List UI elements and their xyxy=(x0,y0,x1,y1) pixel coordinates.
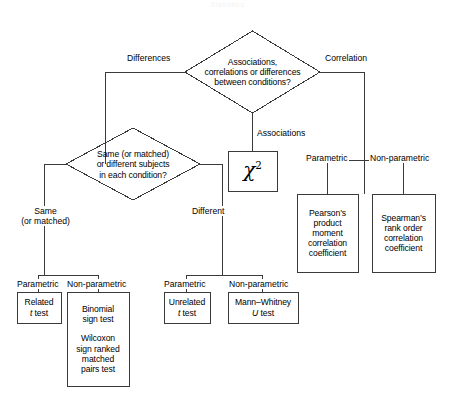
subjects-decision-text: Same (or matched) or different subjects … xyxy=(72,142,194,187)
edge-label-different: Different xyxy=(191,206,225,216)
edge-label-differences: Differences xyxy=(126,53,171,63)
related-t-line-2: t test xyxy=(25,308,54,318)
pearson-line-2: product xyxy=(308,218,347,228)
edge-label-parametric-different: Parametric xyxy=(163,279,207,289)
binomial-line-2: sign test xyxy=(67,314,129,324)
edge-label-parametric-correlation: Parametric xyxy=(305,153,349,163)
edge-label-nonparametric-same: Non-parametric xyxy=(66,279,127,289)
spearman-line-2: rank order xyxy=(381,223,426,233)
chi-square-symbol: χ2 xyxy=(243,159,262,183)
unrelated-t-line-2: t test xyxy=(169,308,205,318)
spearman-line-1: Spearman’s xyxy=(381,213,426,223)
wilcoxon-line-4: pairs test xyxy=(67,364,129,374)
unrelated-t-italic: t xyxy=(178,308,180,318)
root-decision-text: Associations, correlations or difference… xyxy=(182,48,323,96)
pearson-label: Pearson’s product moment correlation coe… xyxy=(297,194,358,272)
subjects-decision-line-1: Same (or matched) xyxy=(97,149,170,159)
edge-label-nonparametric-correlation: Non-parametric xyxy=(369,153,430,163)
root-decision-line-2: correlations or differences xyxy=(204,67,300,77)
edge-label-associations: Associations xyxy=(256,128,306,138)
related-t-label: Related t test xyxy=(17,292,61,323)
nonparam-same-label: Binomial sign test Wilcoxon sign ranked … xyxy=(67,292,129,386)
mann-whitney-line-1: Mann–Whitney xyxy=(235,297,291,307)
pearson-line-4: correlation xyxy=(308,238,347,248)
unrelated-t-line-1: Unrelated xyxy=(169,297,205,307)
mann-whitney-line-2: U test xyxy=(235,308,291,318)
spearman-line-3: correlation xyxy=(381,233,426,243)
binomial-line-1: Binomial xyxy=(67,304,129,314)
unrelated-t-label: Unrelated t test xyxy=(164,292,210,323)
pearson-line-1: Pearson’s xyxy=(308,208,347,218)
wilcoxon-line-1: Wilcoxon xyxy=(67,333,129,343)
related-t-italic: t xyxy=(30,308,32,318)
flowchart-canvas: Statistics xyxy=(0,0,455,415)
pearson-line-3: moment xyxy=(308,228,347,238)
subjects-decision-line-2: or different subjects xyxy=(97,159,170,169)
pearson-line-5: coefficient xyxy=(308,248,347,258)
mann-whitney-label: Mann–Whitney U test xyxy=(228,292,298,323)
wilcoxon-line-2: sign ranked xyxy=(67,344,129,354)
related-t-line-1: Related xyxy=(25,297,54,307)
edge-label-parametric-same: Parametric xyxy=(16,279,60,289)
edge-label-same: Same (or matched) xyxy=(7,206,84,226)
box-inner-gap xyxy=(67,324,129,333)
wilcoxon-line-3: matched xyxy=(67,354,129,364)
root-decision-line-1: Associations, xyxy=(204,57,300,67)
mann-whitney-italic: U xyxy=(252,308,258,318)
edge-label-same-line-1: Same xyxy=(8,206,83,216)
root-decision-line-3: between conditions? xyxy=(204,77,300,87)
edge-different xyxy=(200,164,222,275)
edge-label-correlation: Correlation xyxy=(324,53,368,63)
chi-square-label: χ2 xyxy=(228,151,277,191)
edge-label-nonparametric-different: Non-parametric xyxy=(228,279,289,289)
spearman-line-4: coefficient xyxy=(381,243,426,253)
subjects-decision-line-3: in each condition? xyxy=(97,170,170,180)
spearman-label: Spearman’s rank order correlation coeffi… xyxy=(372,194,435,272)
edge-label-same-line-2: (or matched) xyxy=(8,216,83,226)
